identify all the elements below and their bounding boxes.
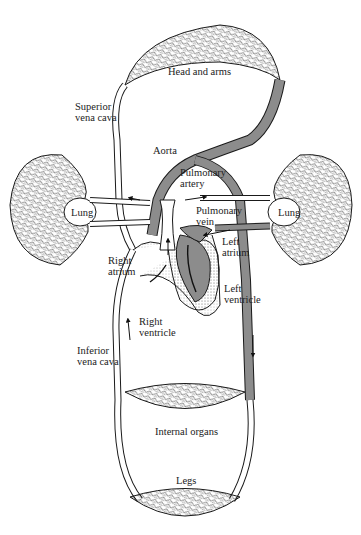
label-line: vena cava bbox=[77, 356, 119, 367]
label-line: Pulmonary bbox=[196, 205, 242, 216]
label-right-ventricle: Right ventricle bbox=[139, 316, 176, 338]
label-line: ventricle bbox=[224, 294, 261, 305]
label-line: Left bbox=[224, 283, 261, 294]
label-line: Pulmonary bbox=[180, 167, 226, 178]
label-aorta: Aorta bbox=[153, 145, 177, 156]
label-line: artery bbox=[180, 178, 226, 189]
label-line: Right bbox=[139, 316, 176, 327]
legs-capillaries bbox=[130, 489, 240, 517]
label-lung-right: Lung bbox=[278, 207, 300, 218]
label-superior-vena-cava: Superior vena cava bbox=[75, 101, 117, 123]
label-line: Right bbox=[108, 255, 135, 266]
circulatory-diagram bbox=[0, 0, 361, 535]
label-line: atrium bbox=[108, 266, 135, 277]
label-line: vein bbox=[196, 216, 242, 227]
label-left-ventricle: Left ventricle bbox=[224, 283, 261, 305]
label-line: vena cava bbox=[75, 112, 117, 123]
label-pulmonary-vein: Pulmonary vein bbox=[196, 205, 242, 227]
label-left-atrium: Left atrium bbox=[222, 236, 249, 258]
label-internal-organs: Internal organs bbox=[155, 426, 218, 437]
label-line: atrium bbox=[222, 247, 249, 258]
label-inferior-vena-cava: Inferior vena cava bbox=[77, 345, 119, 367]
label-lung-left: Lung bbox=[71, 207, 93, 218]
label-line: Superior bbox=[75, 101, 117, 112]
label-line: Left bbox=[222, 236, 249, 247]
label-pulmonary-artery: Pulmonary artery bbox=[180, 167, 226, 189]
internal-organs-capillaries bbox=[125, 384, 245, 409]
label-head-and-arms: Head and arms bbox=[168, 66, 231, 77]
label-right-atrium: Right atrium bbox=[108, 255, 135, 277]
label-legs: Legs bbox=[176, 475, 196, 486]
label-line: Inferior bbox=[77, 345, 119, 356]
label-line: ventricle bbox=[139, 327, 176, 338]
